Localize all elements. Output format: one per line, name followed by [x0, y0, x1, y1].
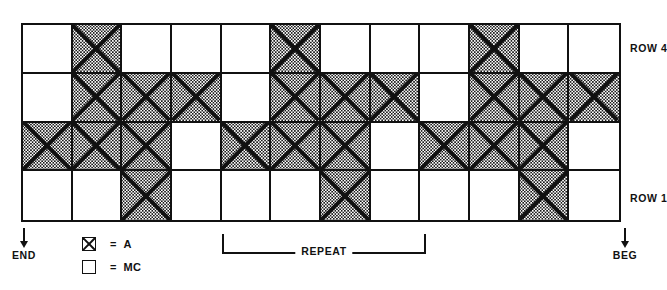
chart-cell	[420, 25, 470, 74]
chart-cell	[569, 123, 619, 172]
chart-cell	[371, 74, 421, 123]
chart-cell	[23, 25, 73, 74]
arrow-head	[20, 241, 28, 248]
row-label-top: ROW 4	[630, 42, 667, 54]
chart-cell	[122, 123, 172, 172]
chart-cell	[271, 74, 321, 123]
legend-item-a: = A	[82, 232, 142, 255]
pattern-chart	[21, 23, 621, 222]
chart-cell	[569, 25, 619, 74]
chart-cell	[172, 171, 222, 220]
chart-cell	[420, 171, 470, 220]
chart-cell	[122, 25, 172, 74]
repeat-tick-right	[424, 234, 426, 254]
chart-cell	[172, 74, 222, 123]
chart-cell	[371, 171, 421, 220]
x-box-icon	[82, 237, 96, 251]
row-label-bottom: ROW 1	[630, 192, 667, 204]
chart-cell	[420, 74, 470, 123]
chart-cell	[520, 25, 570, 74]
chart-cell	[271, 25, 321, 74]
chart-cell	[321, 74, 371, 123]
pattern-grid	[21, 23, 621, 222]
chart-cell	[520, 171, 570, 220]
chart-cell	[222, 25, 272, 74]
beg-label: BEG	[602, 249, 648, 261]
chart-cell	[122, 74, 172, 123]
legend-label-mc: MC	[123, 261, 141, 273]
down-arrow-icon	[1, 228, 47, 248]
chart-cell	[73, 25, 123, 74]
empty-box-icon	[82, 260, 96, 274]
chart-cell	[222, 123, 272, 172]
chart-cell	[470, 25, 520, 74]
end-marker: END	[1, 228, 47, 261]
chart-cell	[321, 171, 371, 220]
end-label: END	[1, 249, 47, 261]
chart-cell	[23, 74, 73, 123]
down-arrow-icon	[602, 228, 648, 248]
chart-cell	[569, 74, 619, 123]
chart-cell	[23, 123, 73, 172]
chart-cell	[569, 171, 619, 220]
chart-cell	[420, 123, 470, 172]
chart-cell	[271, 123, 321, 172]
legend: = A = MC	[82, 232, 142, 278]
chart-cell	[23, 171, 73, 220]
repeat-tick-left	[222, 234, 224, 254]
chart-cell	[172, 123, 222, 172]
chart-cell	[222, 171, 272, 220]
chart-cell	[271, 171, 321, 220]
beg-marker: BEG	[602, 228, 648, 261]
chart-cell	[321, 123, 371, 172]
chart-cell	[520, 74, 570, 123]
legend-label-a: A	[123, 238, 131, 250]
legend-item-mc: = MC	[82, 255, 142, 278]
chart-cell	[172, 25, 222, 74]
repeat-label: REPEAT	[295, 245, 352, 257]
legend-equals: =	[110, 261, 116, 273]
chart-cell	[73, 74, 123, 123]
chart-cell	[520, 123, 570, 172]
chart-cell	[470, 123, 520, 172]
chart-cell	[73, 123, 123, 172]
repeat-bracket: REPEAT	[222, 234, 426, 264]
chart-cell	[321, 25, 371, 74]
chart-cell	[73, 171, 123, 220]
chart-cell	[122, 171, 172, 220]
chart-cell	[470, 74, 520, 123]
legend-equals: =	[110, 238, 116, 250]
chart-cell	[371, 123, 421, 172]
arrow-head	[621, 241, 629, 248]
chart-cell	[371, 25, 421, 74]
chart-cell	[470, 171, 520, 220]
chart-cell	[222, 74, 272, 123]
